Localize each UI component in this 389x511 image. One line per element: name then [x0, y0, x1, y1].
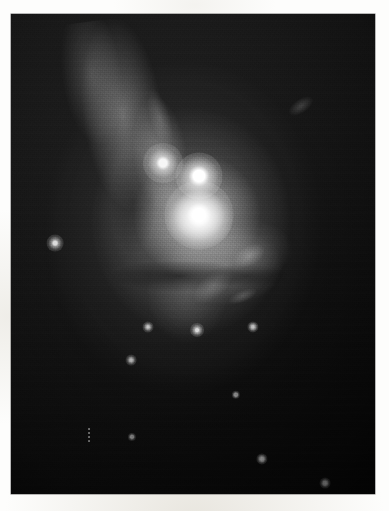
field-star-lower-c — [126, 355, 137, 366]
sky-background-layer — [11, 14, 375, 494]
field-star-lower-a — [190, 323, 204, 337]
emulsion-streak-artifact — [88, 428, 90, 443]
page-root: Grayscale astronomical photograph of a b… — [0, 0, 389, 511]
wisp-arm-edge — [142, 86, 178, 149]
field-star-lower-g — [232, 391, 240, 399]
scan-banding-layer — [11, 14, 375, 494]
plate-caption: Grayscale astronomical photograph of a b… — [11, 14, 12, 15]
core-knot — [165, 181, 234, 250]
artifact-group — [11, 14, 375, 494]
wisp-group — [11, 14, 375, 494]
film-grain-layer — [11, 14, 375, 494]
nebula-plume-layer — [11, 14, 375, 494]
nebula-fan-layer — [11, 14, 375, 494]
wisp-halo-south — [187, 261, 239, 310]
field-star-lower-d — [247, 321, 258, 332]
wisp-dust-knot — [229, 239, 268, 273]
vignette-layer — [11, 14, 375, 494]
wisp-upper-right — [285, 92, 316, 119]
field-star-left — [47, 235, 64, 252]
field-star-lower-e — [256, 453, 267, 464]
dust-lane-layer — [11, 14, 375, 494]
field-star-lower-b — [143, 322, 154, 333]
astronomical-plate: Grayscale astronomical photograph of a b… — [11, 14, 375, 494]
bright-star-knot — [176, 153, 223, 200]
nebula-core-glow-layer — [11, 14, 375, 494]
field-star-lower-f — [320, 478, 331, 489]
west-knot — [143, 143, 183, 183]
wisp-lower-left — [227, 285, 259, 307]
field-star-lower-h — [128, 433, 136, 441]
point-source-group — [11, 14, 375, 494]
